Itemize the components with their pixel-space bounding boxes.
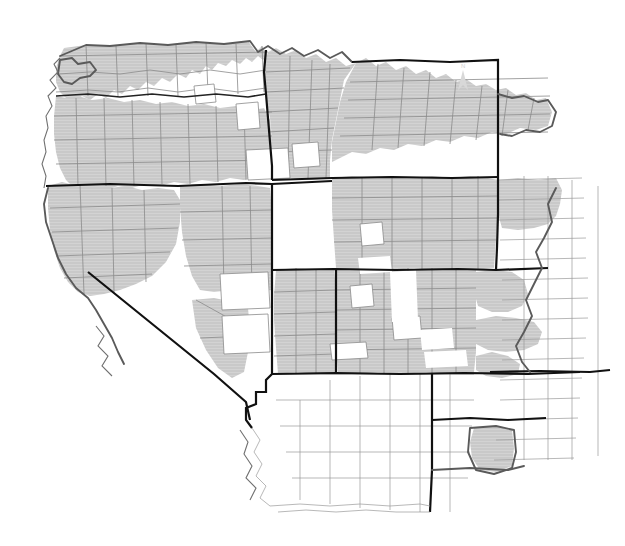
border-ok-panhandle-north: [432, 418, 546, 420]
hole-plains-west-strip: [390, 270, 418, 322]
hole-wyoming-southwest: [358, 256, 392, 274]
shaded-state-wyoming: [332, 176, 498, 270]
unshaded-county-mt-central-a: [292, 142, 320, 168]
hole-plains-west-strip-c: [424, 350, 468, 368]
map-figure: N: [0, 0, 625, 546]
hole-plains-west-strip-b: [420, 328, 454, 350]
map-canvas: N: [0, 0, 625, 546]
unshaded-county-co-nw: [350, 284, 374, 308]
unshaded-county-nv-central-b: [222, 314, 270, 354]
unshaded-county-nv-central-a: [220, 272, 270, 310]
north-arrow-label: N: [461, 63, 465, 69]
unshaded-county-or-central: [236, 102, 260, 130]
